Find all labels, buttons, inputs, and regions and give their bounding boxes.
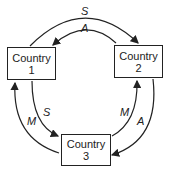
node-country-2: Country 2 (114, 45, 163, 78)
edge-label-c2-c3: A (137, 116, 144, 127)
edge-c2-c3-A (112, 79, 154, 155)
node-country-3-label: Country (67, 138, 106, 150)
edge-label-c1-c3: S (43, 107, 50, 118)
node-country-3-number: 3 (83, 150, 89, 162)
node-country-2-number: 2 (135, 62, 141, 74)
node-country-3: Country 3 (61, 134, 111, 166)
node-country-1-number: 1 (28, 64, 34, 76)
node-country-1: Country 1 (7, 47, 56, 80)
edge-label-c2-c1: A (81, 23, 88, 34)
edge-c3-c1-M (15, 83, 59, 153)
node-country-1-label: Country (12, 52, 51, 64)
edge-label-c3-c1: M (27, 116, 36, 127)
node-country-2-label: Country (119, 50, 158, 62)
edge-label-c1-c2: S (81, 6, 88, 17)
edge-label-c3-c2: M (120, 107, 129, 118)
